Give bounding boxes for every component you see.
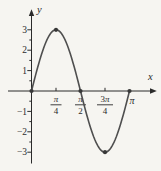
marked-point <box>29 89 33 93</box>
y-tick-label: 3 <box>22 25 27 35</box>
marked-point <box>127 89 131 93</box>
x-tick-label: π <box>129 95 135 106</box>
y-axis-label: y <box>37 5 42 16</box>
y-tick-label: −2 <box>17 127 27 137</box>
x-tick-label-denominator: 2 <box>78 106 83 116</box>
y-tick-label: 1 <box>22 66 27 76</box>
x-tick-label-denominator: 4 <box>103 106 108 116</box>
y-axis-arrowhead-icon <box>29 9 34 16</box>
x-tick-label-denominator: 4 <box>54 106 59 116</box>
marked-point <box>54 28 58 32</box>
x-tick-label-numerator: 3π <box>100 94 110 104</box>
x-axis-arrowhead-icon <box>150 88 157 93</box>
y-tick-label: −3 <box>17 147 27 157</box>
sine-curve-plot: 321−1−2−3π4π23π4π <box>0 0 161 171</box>
y-tick-label: 2 <box>22 45 27 55</box>
y-tick-label: −1 <box>17 107 27 117</box>
marked-point <box>103 150 107 154</box>
figure: 321−1−2−3π4π23π4π y x <box>0 0 161 171</box>
x-tick-label-numerator: π <box>54 94 59 104</box>
marked-point <box>78 89 82 93</box>
x-axis-label: x <box>148 72 153 83</box>
